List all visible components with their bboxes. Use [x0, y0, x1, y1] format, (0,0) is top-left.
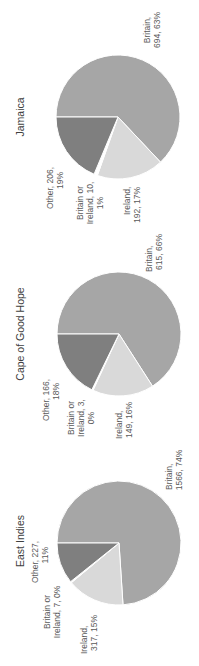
label-line: Other, 166, [41, 379, 51, 421]
label-jamaica-ireland: Ireland, 192, 17% [122, 187, 142, 223]
label-cape-britain-or-ireland: Britain or Ireland, 3, 0% [66, 399, 96, 437]
pie-cape-of-good-hope [57, 272, 181, 396]
chart-title-jamaica: Jamaica [14, 97, 26, 136]
pie-east-indies [57, 481, 181, 605]
label-east-indies-britain-or-ireland: Britain or Ireland, 7, 0% [42, 585, 62, 638]
label-east-indies-britain: Britain, 1566, 74% [164, 449, 184, 490]
label-east-indies-other: Other, 227, 11% [30, 541, 50, 583]
label-line: 18% [51, 383, 61, 400]
label-line: 694, 63% [152, 12, 162, 48]
pie-charts-figure: Jamaica Britain, 694, 63% Other, 206, 19… [0, 0, 199, 666]
label-line: 192, 17% [132, 187, 142, 223]
label-cape-ireland: Ireland, 149, 16% [114, 402, 134, 439]
label-jamaica-britain: Britain, 694, 63% [142, 12, 162, 48]
label-line: 11% [40, 547, 50, 564]
label-line: Ireland, [122, 187, 132, 215]
label-line: 615, 66% [154, 234, 164, 270]
label-line: 0% [86, 411, 96, 424]
label-line: Ireland, 10, [85, 182, 95, 225]
label-line: Ireland, 3, [76, 399, 86, 437]
label-line: Britain, [144, 246, 154, 272]
label-line: Britain, [164, 464, 174, 490]
label-line: 1566, 74% [174, 449, 184, 490]
label-line: 19% [55, 172, 65, 189]
label-jamaica-britain-or-ireland: Britain or Ireland, 10, 1% [75, 182, 105, 225]
label-line: Other, 227, [30, 541, 40, 583]
label-line: Britain or [75, 186, 85, 220]
label-line: 1% [95, 196, 105, 209]
label-cape-britain: Britain, 615, 66% [144, 234, 164, 272]
label-line: Ireland, [114, 411, 124, 439]
label-east-indies-ireland: Ireland, 317, 15% [79, 615, 99, 654]
chart-title-east-indies: East Indies [14, 515, 26, 567]
label-line: Ireland, 7, 0% [52, 585, 62, 638]
label-line: Britain, [142, 17, 152, 43]
label-line: 317, 15% [89, 615, 99, 651]
label-cape-other: Other, 166, 18% [41, 379, 61, 421]
pie-jamaica [56, 55, 180, 179]
label-jamaica-other: Other, 206, 19% [45, 167, 65, 209]
label-line: Ireland, [79, 626, 89, 654]
chart-title-cape-of-good-hope: Cape of Good Hope [14, 287, 26, 381]
label-line: Other, 206, [45, 167, 55, 209]
label-line: 149, 16% [124, 402, 134, 438]
label-line: Britain or [42, 595, 52, 629]
label-line: Britain or [66, 401, 76, 435]
